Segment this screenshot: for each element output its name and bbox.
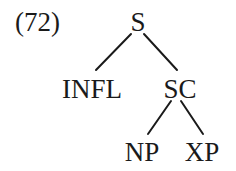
node-s: S	[130, 9, 145, 36]
edge-sc-xp	[181, 101, 203, 134]
example-number: (72)	[15, 9, 60, 36]
node-xp: XP	[185, 139, 220, 166]
node-infl: INFL	[62, 76, 122, 103]
syntax-tree-diagram: (72) S INFL SC NP XP	[0, 0, 236, 171]
node-np: NP	[125, 139, 160, 166]
node-sc: SC	[163, 76, 196, 103]
edge-s-sc	[144, 34, 177, 70]
edge-s-infl	[96, 34, 131, 70]
edge-sc-np	[148, 101, 171, 134]
